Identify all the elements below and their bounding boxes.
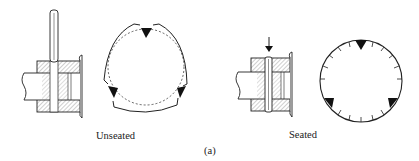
unseated-top-wedge-icon — [141, 28, 152, 38]
unseated-right-wedge-icon — [177, 86, 186, 98]
unseated-pin-hole — [50, 61, 58, 112]
diagram-canvas — [0, 0, 419, 161]
seated-top-wedge-icon — [355, 40, 367, 50]
seated-ring-circle — [320, 40, 402, 122]
panel-label: (a) — [204, 145, 216, 156]
seated-hub-assembly — [236, 37, 292, 117]
unseated-ring — [104, 24, 187, 112]
press-arrow-icon — [265, 46, 273, 52]
unseated-left-wedge-icon — [108, 86, 118, 98]
unseated-reference-circle — [108, 29, 184, 105]
unseated-hub-assembly — [22, 10, 82, 118]
unseated-caption: Unseated — [96, 130, 135, 141]
seated-caption: Seated — [289, 129, 317, 140]
ring-segment-right — [153, 24, 187, 86]
ring-segment-left — [104, 24, 140, 84]
seated-ring — [320, 40, 402, 122]
